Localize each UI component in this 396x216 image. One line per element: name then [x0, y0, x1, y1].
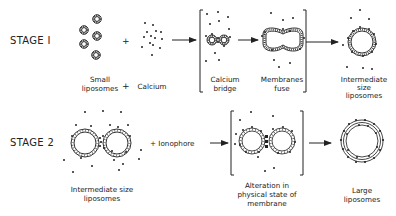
bracket-left: [231, 111, 234, 175]
plus-sign: +: [122, 36, 130, 46]
caption-alteration-1: Alteration in: [245, 181, 289, 190]
caption-membranes-fuse-2: fuse: [274, 84, 290, 93]
bracket-right: [300, 111, 303, 175]
bracket-right: [303, 10, 306, 92]
small-liposomes-icon: [80, 15, 102, 60]
caption-membranes-fuse-1: Membranes: [261, 75, 304, 84]
calcium-ions-icon: [141, 22, 163, 56]
intermediate-liposome-icon: [342, 9, 377, 70]
caption-plus: +: [122, 81, 130, 91]
caption-liposomes: liposomes: [82, 84, 119, 93]
caption-large-liposomes: liposomes: [344, 195, 381, 204]
liposome-fusion-diagram: STAGE I +: [0, 0, 396, 216]
bracket-left: [200, 10, 203, 92]
caption-intermediate-size: Intermediate size: [71, 185, 134, 194]
caption-calcium-bridge-1: Calcium: [211, 75, 240, 84]
membranes-fuse-icon: [261, 12, 305, 68]
alteration-membrane-icon: [234, 111, 296, 172]
calcium-bridge-icon: [205, 11, 231, 62]
caption-intermediate-3: liposomes: [346, 91, 383, 100]
stage2-label: STAGE 2: [10, 137, 54, 148]
caption-calcium-bridge-2: bridge: [213, 84, 237, 93]
caption-calcium: Calcium: [138, 82, 167, 91]
stage1-label: STAGE I: [10, 35, 51, 46]
caption-liposomes: liposomes: [84, 194, 121, 203]
caption-small: Small: [90, 75, 110, 84]
caption-alteration-2: physical state of: [237, 190, 297, 199]
intermediate-liposomes-pair-icon: [63, 110, 142, 173]
caption-alteration-3: membrane: [247, 199, 287, 208]
plus-ionophore: + Ionophore: [150, 139, 195, 148]
caption-large: Large: [352, 186, 373, 195]
large-liposome-icon: [340, 119, 384, 163]
